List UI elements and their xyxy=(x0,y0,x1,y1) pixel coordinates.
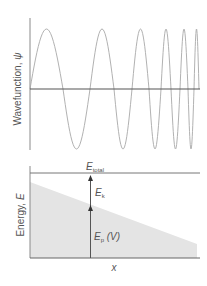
energy-panel: Etotal Ek Ep (V) Energy, E x xyxy=(15,161,200,273)
potential-energy-region xyxy=(30,182,197,258)
x-axis-label: x xyxy=(111,262,118,273)
wavefunction-panel: Wavefunction, ψ xyxy=(12,18,200,150)
total-energy-arrowhead-icon xyxy=(88,175,93,181)
wavefunction-y-label: Wavefunction, ψ xyxy=(12,52,23,126)
energy-wavefunction-diagram: Wavefunction, ψ Etotal Ek Ep (V) Energy,… xyxy=(0,0,207,286)
potential-energy-label: Ep (V) xyxy=(94,231,120,243)
kinetic-energy-label: Ek xyxy=(95,187,106,199)
total-energy-label: Etotal xyxy=(86,161,104,173)
energy-y-label: Energy, E xyxy=(15,193,26,237)
